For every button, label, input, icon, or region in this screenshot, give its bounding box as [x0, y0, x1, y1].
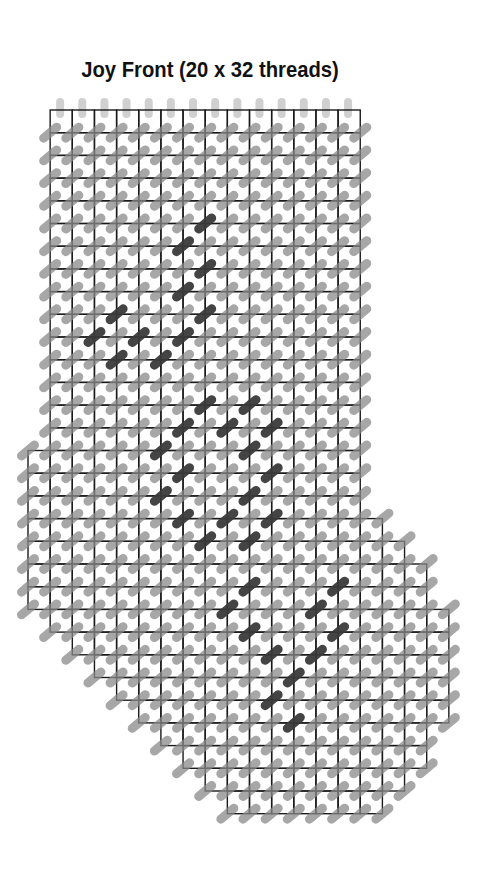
top-edge-ovals	[56, 98, 352, 118]
top-edge-oval	[78, 98, 86, 118]
top-edge-oval	[344, 98, 352, 118]
top-edge-oval	[255, 98, 263, 118]
top-edge-oval	[233, 98, 241, 118]
top-edge-oval	[123, 98, 131, 118]
top-edge-oval	[56, 98, 64, 118]
stitch-chart-stocking	[0, 0, 495, 882]
top-edge-oval	[100, 98, 108, 118]
top-edge-oval	[211, 98, 219, 118]
top-edge-oval	[167, 98, 175, 118]
top-edge-oval	[322, 98, 330, 118]
top-edge-oval	[189, 98, 197, 118]
top-edge-oval	[145, 98, 153, 118]
grid-lines	[28, 110, 449, 814]
top-edge-oval	[300, 98, 308, 118]
top-edge-oval	[278, 98, 286, 118]
